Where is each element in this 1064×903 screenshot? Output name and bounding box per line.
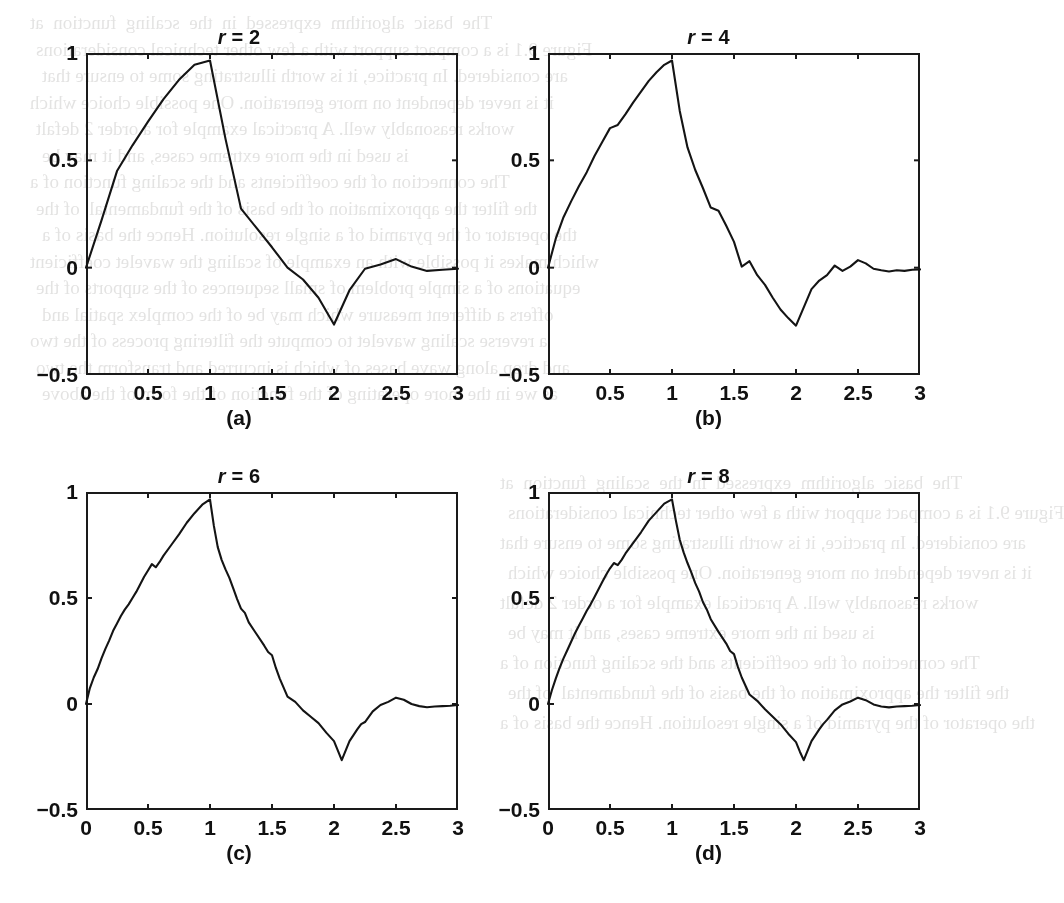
x-axis-tick-label: 0 <box>542 816 554 840</box>
x-axis-tick-label: 2.5 <box>381 381 410 405</box>
x-axis-tick-label: 0.5 <box>595 381 624 405</box>
x-axis-tick-label: 0 <box>80 381 92 405</box>
y-axis-tick-label: 0 <box>0 692 78 716</box>
plot-content <box>548 492 920 810</box>
data-series-curve <box>548 61 920 326</box>
x-axis-tick-label: 2 <box>328 816 340 840</box>
plot-content <box>86 53 458 375</box>
x-axis-tick-label: 0 <box>80 816 92 840</box>
x-axis-tick-label: 3 <box>914 381 926 405</box>
panel-d: r = 8 (d) 00.511.522.53−0.500.51 <box>462 439 955 903</box>
plot-content <box>86 492 458 810</box>
y-axis-tick-label: 0 <box>462 256 540 280</box>
x-axis-tick-label: 1 <box>666 816 678 840</box>
data-series-curve <box>548 499 920 760</box>
x-axis-tick-label: 1.5 <box>719 816 748 840</box>
panel-b: r = 4 (b) 00.511.522.53−0.500.51 <box>462 0 955 452</box>
x-axis-tick-label: 2 <box>328 381 340 405</box>
panel-a-caption: (a) <box>0 406 478 430</box>
y-axis-tick-label: 1 <box>0 41 78 65</box>
x-axis-tick-label: 2 <box>790 381 802 405</box>
x-axis-tick-label: 1.5 <box>257 816 286 840</box>
y-axis-tick-label: 1 <box>462 41 540 65</box>
x-axis-tick-label: 3 <box>914 816 926 840</box>
y-axis-tick-label: −0.5 <box>0 363 78 387</box>
x-axis-tick-label: 0.5 <box>595 816 624 840</box>
x-axis-tick-label: 1 <box>666 381 678 405</box>
plot-content <box>548 53 920 375</box>
panel-c: r = 6 (c) 00.511.522.53−0.500.51 <box>0 439 478 903</box>
y-axis-tick-label: 0 <box>462 692 540 716</box>
y-axis-tick-label: 0.5 <box>462 586 540 610</box>
x-axis-tick-label: 2.5 <box>381 816 410 840</box>
data-series-curve <box>86 499 458 760</box>
data-series-curve <box>86 61 458 325</box>
y-axis-tick-label: −0.5 <box>0 798 78 822</box>
x-axis-tick-label: 1.5 <box>719 381 748 405</box>
x-axis-tick-label: 2.5 <box>843 381 872 405</box>
x-axis-tick-label: 1 <box>204 816 216 840</box>
x-axis-tick-label: 2.5 <box>843 816 872 840</box>
y-axis-tick-label: 0.5 <box>462 148 540 172</box>
panel-b-caption: (b) <box>462 406 955 430</box>
y-axis-tick-label: 0.5 <box>0 148 78 172</box>
x-axis-tick-label: 1.5 <box>257 381 286 405</box>
panel-d-caption: (d) <box>462 841 955 865</box>
x-axis-tick-label: 0 <box>542 381 554 405</box>
y-axis-tick-label: 1 <box>462 480 540 504</box>
y-axis-tick-label: 1 <box>0 480 78 504</box>
y-axis-tick-label: −0.5 <box>462 798 540 822</box>
x-axis-tick-label: 0.5 <box>133 816 162 840</box>
x-axis-tick-label: 0.5 <box>133 381 162 405</box>
panel-a: r = 2 (a) 00.511.522.53−0.500.51 <box>0 0 478 452</box>
y-axis-tick-label: 0 <box>0 256 78 280</box>
x-axis-tick-label: 2 <box>790 816 802 840</box>
panel-d-plot <box>462 439 955 903</box>
y-axis-tick-label: 0.5 <box>0 586 78 610</box>
panel-c-caption: (c) <box>0 841 478 865</box>
y-axis-tick-label: −0.5 <box>462 363 540 387</box>
x-axis-tick-label: 1 <box>204 381 216 405</box>
